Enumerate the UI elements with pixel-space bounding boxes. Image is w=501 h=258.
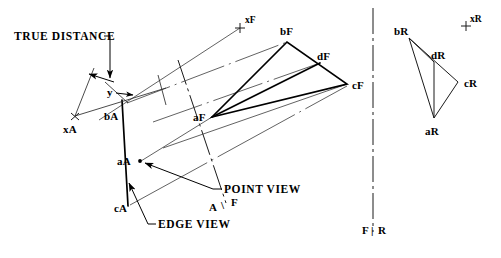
label-cR: cR	[464, 77, 478, 89]
front-view-labels: aF bF cF dF xF	[193, 15, 364, 123]
true-distance-label: TRUE DISTANCE	[14, 30, 115, 42]
label-aF: aF	[193, 111, 206, 123]
label-xF: xF	[245, 15, 256, 25]
fold-label-f2: F	[362, 224, 369, 236]
xf-crosshair-icon	[235, 23, 245, 33]
fold-line-fr: F | R	[362, 8, 387, 236]
projection-line-c1	[163, 84, 347, 148]
label-bR: bR	[394, 25, 409, 37]
true-distance-construction	[71, 68, 166, 120]
fold-label-r: R	[378, 224, 387, 236]
fold-label-f: F	[231, 196, 238, 208]
label-cA: cA	[114, 202, 127, 214]
edge-view-line	[122, 100, 128, 206]
edge-view-arrow	[129, 183, 148, 224]
fold-label-a: A	[209, 201, 217, 213]
label-cF: cF	[352, 79, 364, 91]
label-xA: xA	[63, 123, 77, 135]
technical-drawing-canvas: A \ F F | R	[0, 0, 501, 258]
point-view-annotation: POINT VIEW	[145, 163, 301, 195]
point-aa-marker	[138, 159, 142, 163]
front-line-a-d	[212, 63, 320, 117]
projection-line-x	[99, 28, 240, 120]
right-view-labels: bR cR aR dR xR	[394, 14, 482, 137]
auxiliary-view-labels: bA aA cA xA	[63, 110, 131, 214]
dimension-y-label: y	[107, 86, 113, 98]
fold-separator-af: \	[220, 199, 225, 211]
td-base-line	[75, 88, 166, 116]
projection-lines-group	[99, 28, 347, 205]
label-xR: xR	[470, 14, 482, 24]
label-dR: dR	[431, 49, 446, 61]
label-bF: bF	[280, 25, 293, 37]
label-aR: aR	[425, 125, 440, 137]
fold-separator-fr: |	[371, 224, 374, 236]
projection-line-a	[141, 117, 212, 161]
label-dF: dF	[317, 50, 330, 62]
xa-tick-icon	[71, 113, 79, 120]
projection-line-b	[127, 42, 287, 103]
label-aA: aA	[117, 155, 131, 167]
projection-figure: A \ F F | R	[0, 0, 501, 258]
true-distance-annotation: TRUE DISTANCE	[14, 30, 115, 82]
label-bA: bA	[104, 110, 118, 122]
point-view-arrow	[145, 163, 213, 189]
point-view-label: POINT VIEW	[224, 183, 301, 195]
edge-view-label: EDGE VIEW	[158, 218, 231, 230]
